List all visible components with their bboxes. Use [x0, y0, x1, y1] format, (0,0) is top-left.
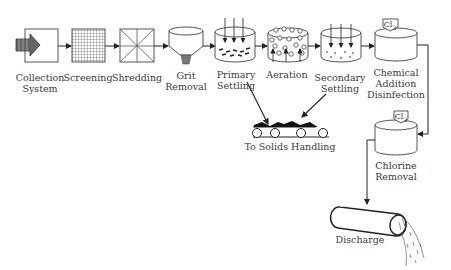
label-grit-removal: GritRemoval	[165, 70, 207, 92]
cl2-badge-chlorine-removal: Cl2	[395, 111, 408, 125]
label-shredding: Shredding	[112, 72, 162, 83]
grit-removal-icon	[169, 27, 203, 64]
screening-icon	[72, 29, 105, 62]
label-discharge: Discharge	[336, 234, 385, 245]
label-secondary-settling: SecondarySettling	[315, 72, 366, 94]
conveyor-icon	[253, 121, 330, 138]
label-chlorine-removal: ChlorineRemoval	[375, 160, 417, 182]
label-screening: Screening	[64, 72, 113, 83]
cl2-badge-chemical: Cl2	[384, 19, 397, 33]
label-chemical-addition-disinfection: ChemicalAdditionDisinfection	[367, 67, 425, 100]
process-diagram	[0, 0, 451, 270]
collection-system-icon	[16, 29, 58, 62]
primary-settling-icon	[215, 18, 255, 62]
shredding-icon	[120, 29, 154, 62]
label-collection-system: CollectionSystem	[16, 72, 65, 94]
secondary-settling-icon	[321, 24, 361, 62]
aeration-icon	[268, 27, 308, 62]
label-aeration: Aeration	[266, 69, 307, 80]
label-solids-handling: To Solids Handling	[244, 141, 335, 152]
label-primary-settling: PrimarySettling	[217, 69, 256, 91]
